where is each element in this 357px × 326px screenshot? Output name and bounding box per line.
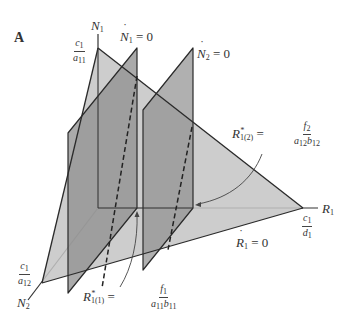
n1-axis-label: N1 — [91, 19, 104, 34]
n2-axis-label: N2 — [17, 296, 30, 311]
r-star-1-label: R*1(1) = — [83, 290, 115, 305]
n1-isocline-label: N1 = 0 — [120, 30, 153, 45]
r-star-2-fraction: f2 a12b12 — [294, 121, 320, 148]
r-star-2-label: R*1(2) = — [232, 127, 264, 142]
r1-isocline-label: R1 = 0 — [236, 236, 268, 251]
n1-intercept-label: c1 a11 — [73, 38, 86, 65]
panel-label: A — [14, 30, 24, 46]
r1-axis-label: R1 — [322, 202, 334, 217]
r-star-1-fraction: f1 a11b11 — [151, 284, 176, 311]
diagram-canvas — [0, 0, 357, 326]
r1-intercept-label: c1 d1 — [302, 213, 312, 240]
n2-isocline-label: N2 = 0 — [197, 47, 230, 62]
n2-intercept-label: c1 a12 — [18, 261, 31, 288]
